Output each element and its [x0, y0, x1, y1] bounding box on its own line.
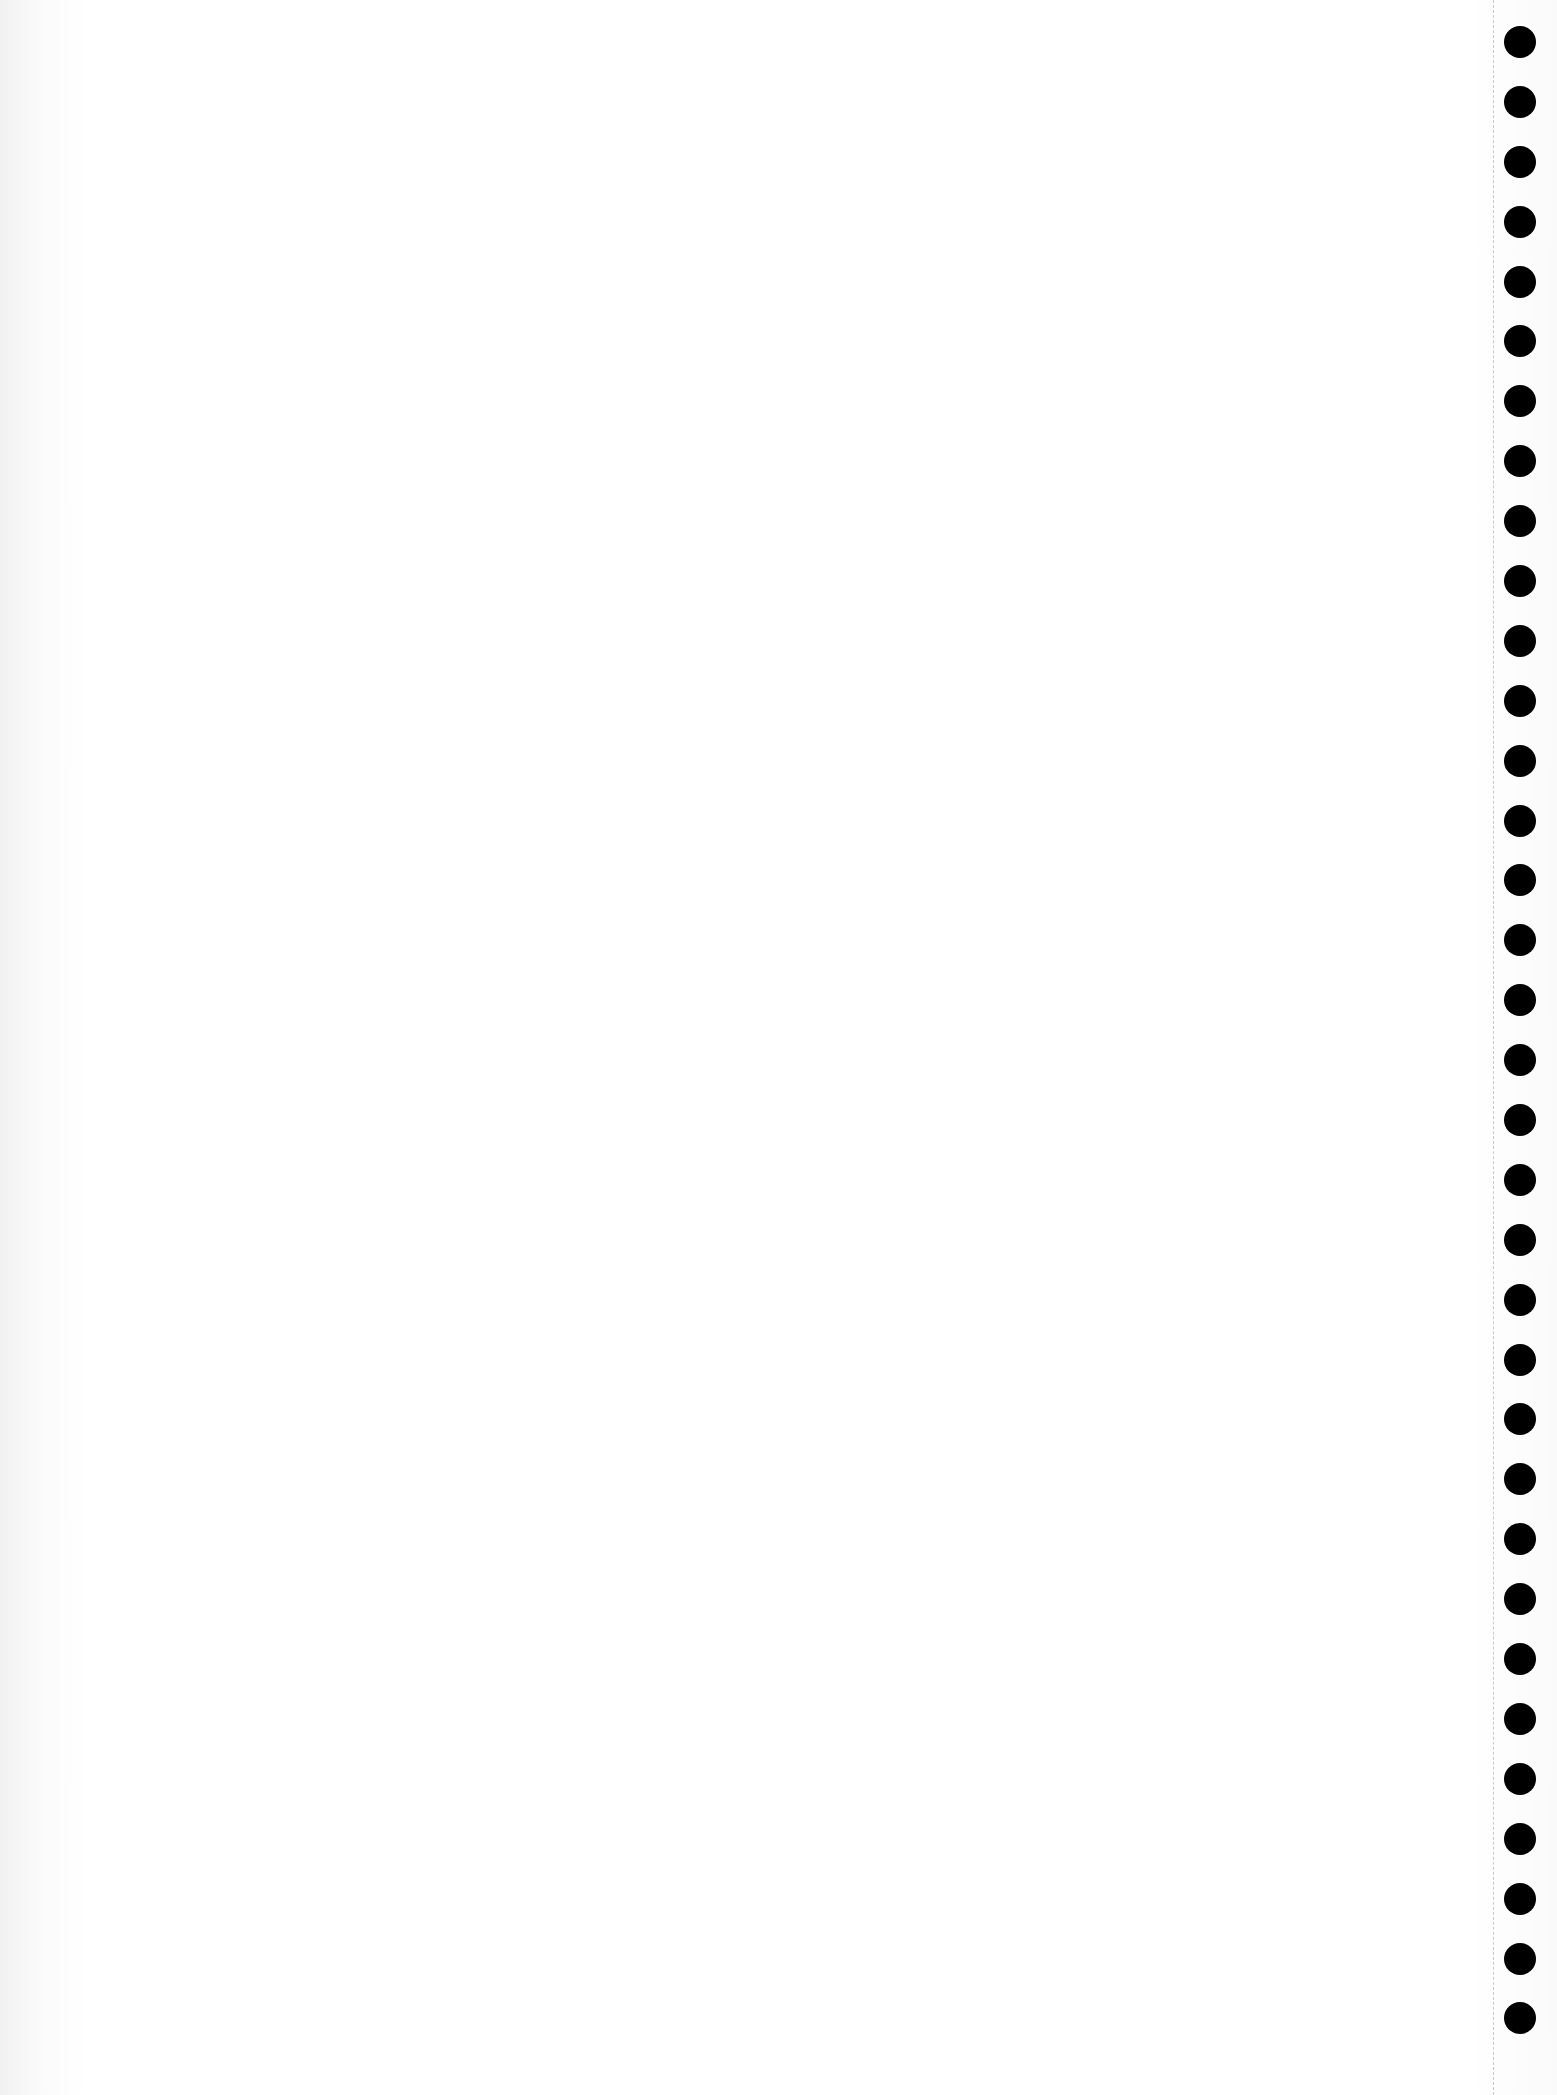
punch-hole-icon: [1504, 1643, 1536, 1675]
punch-hole-icon: [1504, 625, 1536, 657]
punch-hole-icon: [1504, 924, 1536, 956]
punch-hole-icon: [1504, 745, 1536, 777]
punch-hole-icon: [1504, 266, 1536, 298]
punch-hole-icon: [1504, 2002, 1536, 2034]
punch-hole-icon: [1504, 86, 1536, 118]
punch-hole-icon: [1504, 1224, 1536, 1256]
punch-hole-icon: [1504, 1403, 1536, 1435]
punch-hole-icon: [1504, 1583, 1536, 1615]
punch-hole-icon: [1504, 1344, 1536, 1376]
punch-hole-icon: [1504, 1943, 1536, 1975]
punch-hole-icon: [1504, 864, 1536, 896]
punch-hole-icon: [1504, 805, 1536, 837]
punch-hole-icon: [1504, 685, 1536, 717]
perforation-line: [1493, 0, 1494, 2095]
punch-hole-icon: [1504, 565, 1536, 597]
punch-hole-icon: [1504, 1164, 1536, 1196]
punch-hole-icon: [1504, 1763, 1536, 1795]
blank-paper-page: [0, 0, 1557, 2095]
punch-hole-icon: [1504, 505, 1536, 537]
punch-hole-icon: [1504, 325, 1536, 357]
punch-hole-icon: [1504, 206, 1536, 238]
punch-hole-icon: [1504, 1523, 1536, 1555]
punch-hole-icon: [1504, 1044, 1536, 1076]
punch-hole-icon: [1504, 984, 1536, 1016]
punch-hole-icon: [1504, 1284, 1536, 1316]
punch-hole-icon: [1504, 1463, 1536, 1495]
punch-hole-icon: [1504, 146, 1536, 178]
punch-hole-icon: [1504, 1883, 1536, 1915]
punch-hole-icon: [1504, 1823, 1536, 1855]
punch-hole-icon: [1504, 1104, 1536, 1136]
tractor-feed-hole-strip: [1502, 26, 1540, 2062]
punch-hole-icon: [1504, 385, 1536, 417]
punch-hole-icon: [1504, 445, 1536, 477]
punch-hole-icon: [1504, 26, 1536, 58]
punch-hole-icon: [1504, 1703, 1536, 1735]
